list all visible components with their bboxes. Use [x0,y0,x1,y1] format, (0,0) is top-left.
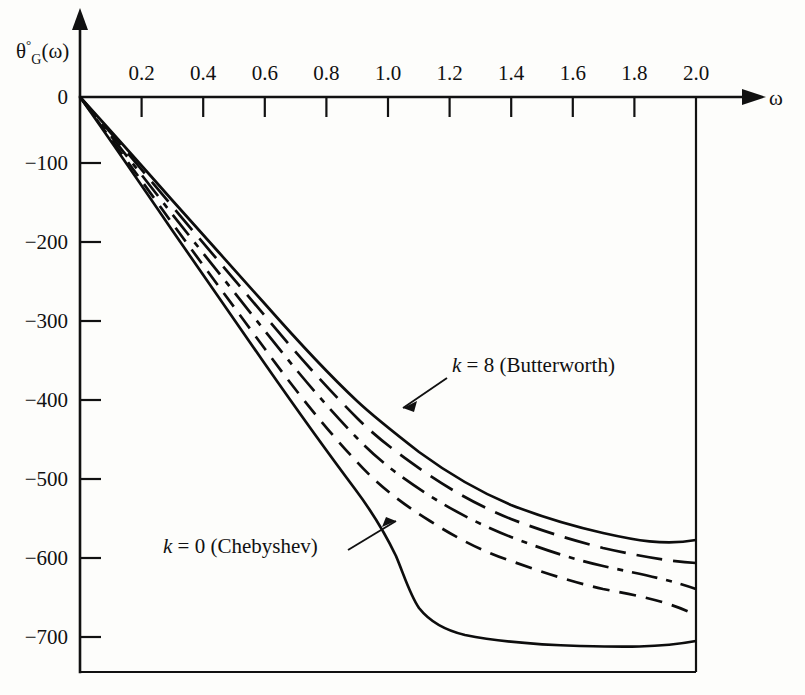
x-tick-label: 1.8 [621,61,647,85]
y-axis-title-degree: ° [26,37,31,52]
x-tick-label: 0.8 [313,61,339,85]
y-axis-title-sub: G [31,52,41,67]
annotation-butterworth-leader [403,378,447,408]
curve-k4 [80,97,696,589]
x-tick-label: 0.4 [190,61,217,85]
y-axis-title-theta: θ [16,39,26,63]
y-axis-ticks [80,163,101,637]
x-tick-label: 1.6 [560,61,586,85]
y-tick-label: −300 [25,309,68,333]
annotation-butterworth: k = 8 (Butterworth) [403,353,615,412]
annotation-chebyshev: k = 0 (Chebyshev) [163,517,396,558]
chart-canvas: 0.2 0.4 0.6 0.8 1.0 1.2 1.4 1.6 1.8 2.0 … [0,0,805,695]
curve-k8-butterworth [80,97,696,542]
x-tick-labels: 0.2 0.4 0.6 0.8 1.0 1.2 1.4 1.6 1.8 2.0 [128,61,709,85]
y-axis-title: θ°G(ω) [16,37,69,67]
x-axis-arrowhead [742,89,766,105]
curve-k6 [80,97,696,563]
y-tick-labels: 0 −100 −200 −300 −400 −500 −600 −700 [25,85,68,649]
x-axis-title: ω [769,86,783,110]
phase-response-figure: 0.2 0.4 0.6 0.8 1.0 1.2 1.4 1.6 1.8 2.0 … [0,0,805,695]
annotation-butterworth-label: k = 8 (Butterworth) [452,353,615,377]
y-tick-label: −200 [25,230,68,254]
annotation-chebyshev-rest: = 0 (Chebyshev) [172,534,317,558]
x-tick-label: 1.4 [498,61,525,85]
y-tick-label: −400 [25,388,68,412]
y-axis-title-arg: (ω) [41,39,69,63]
x-tick-label: 0.6 [252,61,278,85]
x-axis-ticks [142,97,635,117]
x-tick-label: 0.2 [128,61,154,85]
plot-frame [72,8,766,672]
annotation-chebyshev-label: k = 0 (Chebyshev) [163,534,318,558]
y-tick-label: −500 [25,467,68,491]
y-tick-label: −600 [25,546,68,570]
y-axis-arrowhead [72,8,88,30]
y-tick-label: −100 [25,151,68,175]
y-tick-label: 0 [58,85,69,109]
y-tick-label: −700 [25,625,68,649]
x-tick-label: 1.0 [375,61,401,85]
annotation-butterworth-rest: = 8 (Butterworth) [461,353,615,377]
x-tick-label: 1.2 [436,61,462,85]
annotation-chebyshev-leader [348,521,396,550]
x-tick-label: 2.0 [683,61,709,85]
